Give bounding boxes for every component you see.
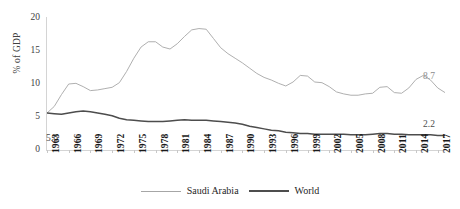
y-axis-title: % of GDP bbox=[12, 8, 22, 98]
x-axis-tick-mark-1993 bbox=[264, 150, 265, 153]
series-line-saudi-arabia bbox=[47, 29, 445, 113]
x-axis-tick-mark-1987 bbox=[221, 150, 222, 153]
x-axis-tick-labels: 1963196619691972197519781981198419871990… bbox=[47, 150, 445, 208]
x-axis-tick-mark-2005 bbox=[351, 150, 352, 153]
x-axis-tick-1990: 1990 bbox=[246, 134, 256, 153]
x-axis-tick-1987: 1987 bbox=[225, 134, 235, 153]
x-axis-tick-mark-1996 bbox=[286, 150, 287, 153]
annotation-end-world: 2.2 bbox=[423, 119, 435, 129]
x-axis-tick-mark-2014 bbox=[416, 150, 417, 153]
series-line-world bbox=[47, 111, 445, 135]
x-axis-tick-1999: 1999 bbox=[312, 134, 322, 153]
x-axis-tick-mark-1966 bbox=[69, 150, 70, 153]
x-axis-tick-1963: 1963 bbox=[51, 134, 61, 153]
x-axis-tick-1975: 1975 bbox=[138, 134, 148, 153]
x-axis-tick-1966: 1966 bbox=[73, 134, 83, 153]
x-axis-tick-2008: 2008 bbox=[377, 134, 387, 153]
legend-label-saudi-arabia: Saudi Arabia bbox=[187, 186, 239, 196]
x-axis-tick-mark-2002 bbox=[329, 150, 330, 153]
x-axis-tick-1984: 1984 bbox=[203, 134, 213, 153]
x-axis-tick-mark-2008 bbox=[373, 150, 374, 153]
x-axis-tick-1978: 1978 bbox=[160, 134, 170, 153]
x-axis-tick-2002: 2002 bbox=[333, 134, 343, 153]
x-axis-tick-mark-1978 bbox=[156, 150, 157, 153]
legend-label-world: World bbox=[295, 186, 320, 196]
x-axis-tick-mark-1981 bbox=[177, 150, 178, 153]
x-axis-tick-2017: 2017 bbox=[442, 134, 452, 153]
legend-swatch-world-icon bbox=[249, 190, 289, 192]
y-axis-tick-15: 15 bbox=[22, 46, 40, 56]
x-axis-tick-1972: 1972 bbox=[116, 134, 126, 153]
plot-area bbox=[47, 18, 445, 150]
x-axis-tick-2005: 2005 bbox=[355, 134, 365, 153]
y-axis-tick-0: 0 bbox=[22, 145, 40, 155]
x-axis-tick-2014: 2014 bbox=[420, 134, 430, 153]
x-axis-tick-mark-2011 bbox=[394, 150, 395, 153]
y-axis-tick-5: 5 bbox=[22, 112, 40, 122]
x-axis-tick-mark-1963 bbox=[47, 150, 48, 153]
x-axis-tick-mark-1972 bbox=[112, 150, 113, 153]
x-axis-tick-mark-1969 bbox=[90, 150, 91, 153]
x-axis-tick-mark-1984 bbox=[199, 150, 200, 153]
x-axis-tick-2011: 2011 bbox=[398, 134, 408, 153]
y-axis-tick-10: 10 bbox=[22, 79, 40, 89]
y-axis-tick-20: 20 bbox=[22, 13, 40, 23]
legend-item-saudi-arabia[interactable]: Saudi Arabia bbox=[141, 186, 239, 196]
x-axis-tick-1996: 1996 bbox=[290, 134, 300, 153]
x-axis-tick-mark-1975 bbox=[134, 150, 135, 153]
chart-legend: Saudi Arabia World bbox=[0, 186, 460, 196]
x-axis-tick-mark-1999 bbox=[308, 150, 309, 153]
x-axis-tick-1981: 1981 bbox=[181, 134, 191, 153]
x-axis-tick-mark-2017 bbox=[438, 150, 439, 153]
x-axis-tick-1969: 1969 bbox=[94, 134, 104, 153]
annotation-end-saudi-arabia: 8.7 bbox=[423, 71, 435, 81]
y-axis-tick-labels: 20151050 bbox=[22, 0, 40, 150]
x-axis-tick-1993: 1993 bbox=[268, 134, 278, 153]
legend-swatch-saudi-arabia-icon bbox=[141, 191, 181, 192]
series-lines bbox=[47, 18, 445, 150]
legend-item-world[interactable]: World bbox=[249, 186, 320, 196]
chart-container: % of GDP 20151050 5.6 8.7 2.2 1963196619… bbox=[0, 0, 460, 209]
x-axis-tick-mark-1990 bbox=[242, 150, 243, 153]
